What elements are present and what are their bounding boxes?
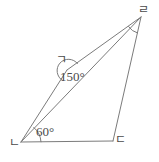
angle-value-at-n: 60°: [36, 125, 54, 138]
vertex-label-d: ㄷ: [115, 134, 126, 146]
angle-arc-at-r: [129, 27, 138, 34]
vertex-label-r: ㄹ: [138, 4, 149, 16]
vertex-label-n: ㄴ: [9, 137, 20, 149]
vertex-label-g: ㄱ: [56, 54, 67, 66]
segment-n-d: [21, 141, 113, 142]
segment-g-r: [67, 17, 141, 70]
segment-d-r: [113, 17, 141, 141]
angle-value-at-g: 150°: [60, 70, 85, 83]
geometry-diagram: ㄱ ㄴ ㄷ ㄹ 150° 60°: [0, 0, 159, 162]
